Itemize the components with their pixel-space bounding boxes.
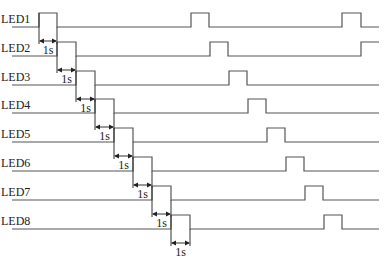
timing-diagram: LED11sLED21sLED31sLED41sLED51sLED61sLED7… (0, 0, 389, 265)
waveform-led5 (12, 128, 379, 142)
waveform-led8 (12, 215, 379, 229)
duration-label: 1s (137, 187, 148, 201)
duration-label: 1s (99, 129, 110, 143)
signal-label: LED1 (1, 12, 30, 26)
waveform-led1 (12, 13, 379, 27)
duration-label: 1s (156, 216, 167, 230)
duration-label: 1s (61, 72, 72, 86)
signal-label: LED5 (1, 127, 30, 141)
waveform-led2 (12, 42, 379, 56)
duration-label: 1s (175, 245, 186, 259)
signal-label: LED7 (1, 185, 30, 199)
signal-label: LED6 (1, 156, 30, 170)
signal-label: LED8 (1, 214, 30, 228)
waveform-led6 (12, 157, 379, 171)
signal-label: LED3 (1, 70, 30, 84)
signal-label: LED4 (1, 98, 30, 112)
waveform-led7 (12, 186, 379, 200)
duration-label: 1s (118, 158, 129, 172)
duration-label: 1s (43, 43, 54, 57)
signal-label: LED2 (1, 41, 30, 55)
waveform-led4 (12, 99, 379, 113)
